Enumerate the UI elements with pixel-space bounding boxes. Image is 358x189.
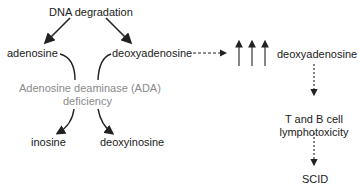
node-lymphotoxicity-line1: T and B cell bbox=[276, 113, 352, 125]
arrow-to-deoxyadenosine bbox=[106, 18, 130, 42]
node-lymphotoxicity-line2: lymphotoxicity bbox=[276, 126, 352, 138]
node-scid: SCID bbox=[302, 173, 328, 185]
arrow-to-inosine bbox=[58, 109, 74, 133]
arrow-to-deoxyinosine bbox=[98, 109, 112, 133]
node-adenosine: adenosine bbox=[7, 47, 58, 59]
enzyme-label-line1: Adenosine deaminase (ADA) bbox=[19, 82, 161, 94]
enzyme-label-line2: deficiency bbox=[63, 95, 112, 107]
node-inosine: inosine bbox=[31, 136, 66, 148]
diagram-arrows bbox=[0, 0, 358, 189]
node-dna-degradation: DNA degradation bbox=[49, 6, 133, 18]
arrow-to-adenosine bbox=[46, 18, 70, 42]
node-deoxyadenosine: deoxyadenosine bbox=[112, 47, 192, 59]
node-deoxyinosine: deoxyinosine bbox=[100, 136, 164, 148]
curve-deoxyadenosine bbox=[98, 54, 111, 80]
curve-adenosine bbox=[60, 54, 75, 80]
node-deoxyadenosine-accumulated: deoxyadenosine bbox=[277, 48, 357, 60]
